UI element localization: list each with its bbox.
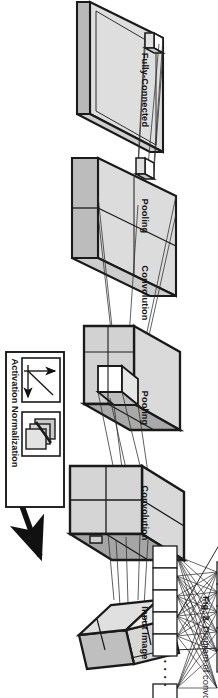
pool1-volume [84, 326, 180, 430]
fully-connected-network [175, 0, 218, 698]
figure-caption-text: Diagram of convolutional neural network … [201, 626, 212, 698]
input-image-volume [77, 2, 163, 152]
stage-label-pooling-1: Pooling [140, 368, 150, 448]
fc-layer-2-ellipsis: • • • • [216, 676, 218, 698]
figure-canvas: Activation Normalization [0, 0, 218, 698]
rotated-diagram-canvas: Activation Normalization [0, 0, 218, 698]
stage-label-convolution-2: Convolution [140, 248, 150, 338]
stacked-planes-icon [26, 419, 55, 449]
stage-label-fully-connected: Fully-Connected [140, 30, 150, 150]
conv1-volume [72, 158, 176, 296]
legend-label-activation: Activation [10, 358, 20, 404]
stage-label-input-image: Input Image [140, 588, 150, 678]
fc-layer-1-ellipsis: • • • • [161, 660, 170, 688]
arrow-to-pooling-2 [22, 506, 40, 556]
legend-label-normalization: Normalization [10, 406, 20, 464]
figure-caption-prefix: Fig. 2. [201, 596, 212, 623]
stage-label-pooling-2: Pooling [140, 176, 150, 256]
stage-label-convolution-1: Convolution [140, 468, 150, 558]
figure-caption: Fig. 2. Diagram of convolutional neural … [201, 596, 212, 698]
